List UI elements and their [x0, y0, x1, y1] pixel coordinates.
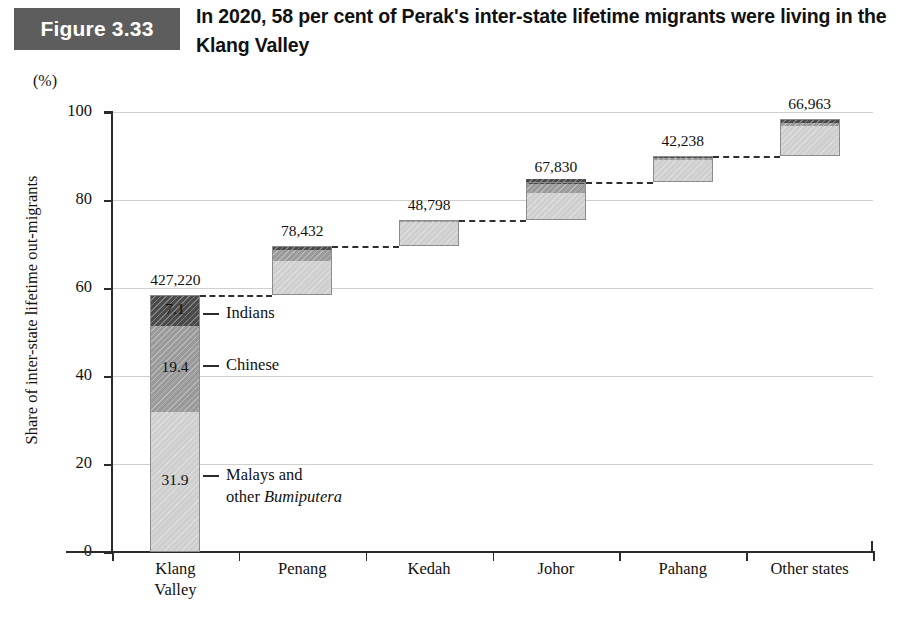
y-tick-label: 100 [40, 101, 92, 121]
y-tick-label: 60 [40, 277, 92, 297]
callout-line-indians [203, 313, 219, 315]
bar-total-label: 67,830 [496, 158, 616, 176]
bar-other-states [780, 119, 840, 157]
bar-segment-chinese [399, 221, 459, 222]
x-tick-label: Penang [232, 558, 372, 579]
callout-label-chinese: Chinese [226, 354, 279, 376]
connector-line [713, 156, 780, 158]
bar-segment-malays [653, 160, 713, 182]
connector-line [459, 220, 526, 222]
x-tick-label: Pahang [613, 558, 753, 579]
bar-segment-indians [272, 246, 332, 250]
segment-value-label: 19.4 [150, 358, 200, 376]
bar-segment-indians [526, 179, 586, 183]
y-axis-line [111, 111, 113, 553]
segment-value-label: 31.9 [150, 471, 200, 489]
bar-segment-malays [399, 222, 459, 246]
bar-total-label: 42,238 [623, 132, 743, 150]
callout-label-malays: Malays andother Bumiputera [226, 464, 342, 508]
bar-segment-chinese [526, 184, 586, 194]
connector-line [586, 182, 653, 184]
y-axis-title: Share of inter-state lifetime out-migran… [22, 110, 42, 510]
bar-segment-indians [780, 119, 840, 123]
bar-segment-malays: 31.9 [150, 412, 200, 552]
bar-segment-malays [272, 261, 332, 295]
bar-total-label: 66,963 [750, 95, 870, 113]
connector-line [332, 246, 399, 248]
bar-kedah [399, 220, 459, 246]
figure-title: In 2020, 58 per cent of Perak's inter-st… [196, 2, 922, 60]
bar-pahang [653, 156, 713, 181]
callout-line-chinese [203, 365, 219, 367]
callout-label-indians: Indians [226, 302, 275, 324]
bar-penang [272, 246, 332, 295]
x-tick-label: Kedah [359, 558, 499, 579]
bar-total-label: 427,220 [115, 271, 235, 289]
bar-segment-chinese [780, 123, 840, 126]
y-tick-label: 40 [40, 365, 92, 385]
bar-segment-chinese: 19.4 [150, 326, 200, 411]
bar-segment-chinese [653, 158, 713, 160]
figure-root: Figure 3.33 In 2020, 58 per cent of Pera… [0, 0, 923, 622]
y-axis-unit-label: (%) [33, 72, 57, 90]
bar-segment-malays [526, 193, 586, 219]
bar-segment-chinese [272, 250, 332, 261]
callout-line-malays [203, 475, 219, 477]
bar-klang-valley: 31.919.47.1 [150, 295, 200, 552]
connector-line [200, 295, 272, 297]
gridline [112, 376, 873, 377]
gridline [112, 200, 873, 201]
bar-segment-indians: 7.1 [150, 295, 200, 326]
bar-segment-indians [399, 220, 459, 221]
figure-number-badge: Figure 3.33 [14, 8, 180, 50]
segment-value-label: 7.1 [150, 300, 200, 318]
x-tick-label: Other states [740, 558, 880, 579]
x-tick-label: Johor [486, 558, 626, 579]
y-tick-label: 20 [40, 453, 92, 473]
figure-number-label: Figure 3.33 [40, 17, 153, 41]
bar-segment-indians [653, 156, 713, 158]
bar-total-label: 78,432 [242, 222, 362, 240]
figure-header: Figure 3.33 In 2020, 58 per cent of Pera… [0, 0, 923, 72]
bar-johor [526, 182, 586, 220]
bar-segment-malays [780, 126, 840, 157]
y-axis-top-cap [104, 111, 113, 113]
y-tick-label: 80 [40, 189, 92, 209]
bar-total-label: 48,798 [369, 196, 489, 214]
x-tick-label: KlangValley [105, 558, 245, 600]
